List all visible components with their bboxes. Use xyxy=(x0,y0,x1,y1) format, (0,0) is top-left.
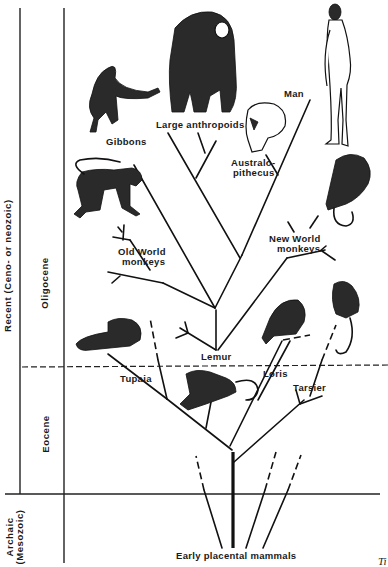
caption-fragment: Ti xyxy=(378,555,387,567)
branch-to-tupaia-node xyxy=(167,399,232,450)
early-mammal-dash-3 xyxy=(288,455,301,490)
new-world-monkey-illustration xyxy=(326,154,370,226)
branch-loris-dash xyxy=(283,335,310,340)
label-loris: Loris xyxy=(263,368,288,379)
gibbon-illustration xyxy=(89,66,160,132)
man-illustration xyxy=(325,4,350,146)
branch-eocene-lemur-stub xyxy=(206,402,211,428)
oligocene-eocene-boundary xyxy=(22,365,388,367)
early-mammal-dash-1 xyxy=(196,456,204,490)
early-mammal-line-2 xyxy=(246,490,265,548)
label-lemur: Lemur xyxy=(201,351,232,362)
branch-tupaia-side-dash xyxy=(150,318,158,360)
label-early-placental-mammals: Early placental mammals xyxy=(176,550,296,561)
epoch-label-eocene: Eocene xyxy=(40,415,51,452)
early-mammal-dash-2 xyxy=(265,452,276,490)
branch-new-world-up-a xyxy=(288,222,294,232)
branch-new-world-fork-b xyxy=(322,251,335,260)
lemur-illustration xyxy=(76,318,141,350)
branch-new-world xyxy=(218,258,287,350)
branch-old-world-up-fork xyxy=(113,237,130,240)
primate-evolution-tree: Recent (Ceno- or neozoic) Oligocene Eoce… xyxy=(0,0,388,567)
label-tarsier: Tarsier xyxy=(293,382,326,393)
branch-anthropoid-fork-a xyxy=(198,133,205,153)
label-tupaia: Tupaia xyxy=(120,373,152,384)
eocene-lemur-illustration xyxy=(180,370,258,410)
old-world-monkey-illustration xyxy=(74,158,142,218)
branch-loris xyxy=(230,341,282,446)
branch-anthropoid-fork xyxy=(196,141,216,178)
epoch-label-oligocene: Oligocene xyxy=(39,257,50,308)
branch-lemur-left-fork-a xyxy=(176,333,188,338)
label-old-world-2: monkeys xyxy=(122,256,165,267)
branch-new-world-up xyxy=(310,216,318,228)
early-mammal-line-3 xyxy=(263,490,288,548)
label-new-world-2: monkeys xyxy=(277,243,320,254)
label-gibbons: Gibbons xyxy=(106,136,147,147)
tarsier-illustration xyxy=(332,281,359,353)
label-australopithecus-2: pithecus xyxy=(233,167,274,178)
branch-old-world-up-fork-c xyxy=(118,227,122,232)
branch-gibbons xyxy=(134,165,215,308)
branch-lemur-left xyxy=(180,328,216,350)
australopithecus-skull xyxy=(246,103,286,152)
era-label-recent: Recent (Ceno- or neozoic) xyxy=(2,199,13,332)
branch-old-world-end xyxy=(108,272,163,283)
branch-old-world-up-fork-b xyxy=(123,225,124,240)
label-man: Man xyxy=(284,88,304,99)
gorilla-illustration xyxy=(169,12,236,112)
branch-tarsier-dash xyxy=(322,325,336,360)
branch-upper-right xyxy=(215,255,242,308)
early-mammal-line-1 xyxy=(204,490,222,548)
era-label-mesozoic: (Mesozoic) xyxy=(14,509,25,564)
branch-old-world-fork xyxy=(112,276,120,283)
branch-tarsier xyxy=(234,400,304,462)
label-large-anthropoids: Large anthropoids xyxy=(156,119,245,130)
